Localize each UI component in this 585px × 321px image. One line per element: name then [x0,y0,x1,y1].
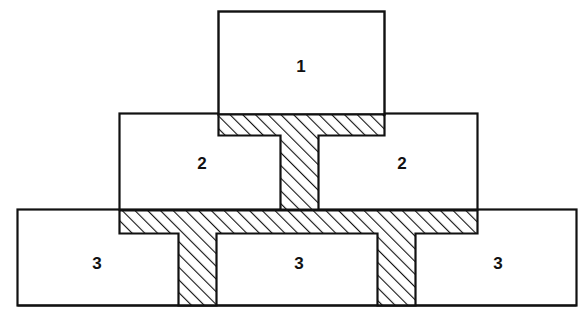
label-level2-right: 2 [397,155,406,172]
connector-upper-stem [281,114,318,210]
label-level1: 1 [296,58,305,75]
label-level3-right: 3 [493,255,502,272]
connector-lower-stem-right [378,210,415,306]
connector-lower-stem-left [179,210,216,306]
diagram-figure [0,0,585,321]
connector-lower-band-bar [119,210,478,234]
label-level2-left: 2 [197,155,206,172]
label-level3-left: 3 [92,255,101,272]
diagram-canvas: 1 2 2 3 3 3 [0,0,585,321]
label-level3-middle: 3 [294,255,303,272]
